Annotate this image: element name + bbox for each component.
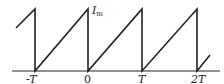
sawtooth-diagram: Im -T 0 T 2T (0, 0, 224, 84)
tick-label-2t: 2T (191, 74, 205, 84)
tick-label-minus-t: -T (26, 74, 37, 84)
sawtooth-waveform (16, 9, 210, 71)
waveform-plot (0, 0, 224, 84)
peak-label: Im (92, 5, 103, 18)
tick-label-t: T (138, 74, 145, 84)
peak-label-subscript: m (96, 10, 103, 18)
tick-label-zero: 0 (84, 74, 91, 84)
